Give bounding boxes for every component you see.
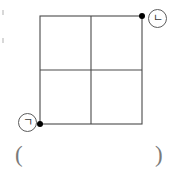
vertex-label-giyeok-text: ㄱ xyxy=(23,117,33,128)
vertex-label-giyeok: ㄱ xyxy=(18,113,37,132)
answer-blank-open-paren: ( xyxy=(15,143,23,166)
vertex-label-nieun: ㄴ xyxy=(148,9,167,28)
vertex-dot-giyeok xyxy=(37,121,43,127)
vertex-label-nieun-text: ㄴ xyxy=(153,13,163,24)
answer-blank-close-paren: ) xyxy=(155,143,163,166)
square-grid-diagram xyxy=(0,0,175,172)
vertex-dot-nieun xyxy=(139,13,145,19)
geometry-figure: ㄱ ㄴ ( ) xyxy=(0,0,175,172)
margin-speck-bottom xyxy=(2,38,4,43)
margin-speck-top xyxy=(2,10,4,15)
